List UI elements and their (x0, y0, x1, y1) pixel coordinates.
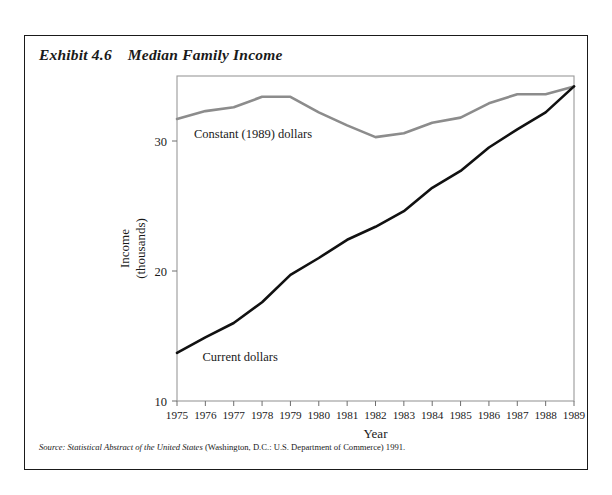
x-tick-label: 1977 (223, 409, 246, 421)
x-tick-label: 1983 (393, 409, 416, 421)
y-tick-label: 20 (155, 265, 168, 279)
series-line (177, 86, 574, 353)
x-tick-label: 1978 (251, 409, 274, 421)
chart-figure: 1020301975197619771978197919801981198219… (25, 36, 589, 471)
x-tick-label: 1988 (534, 409, 557, 421)
exhibit-container: Exhibit 4.6Median Family Income 10203019… (24, 35, 588, 470)
source-publisher: (Washington, D.C.: U.S. Department of Co… (205, 442, 405, 452)
x-tick-label: 1975 (166, 409, 189, 421)
x-tick-label: 1980 (308, 409, 331, 421)
x-tick-label: 1985 (449, 409, 472, 421)
scan-artifact (250, 4, 450, 14)
x-axis-title: Year (364, 426, 389, 441)
source-label: Source: (39, 442, 65, 452)
series-annotation: Current dollars (203, 350, 278, 364)
y-tick-label: 10 (155, 395, 168, 409)
y-axis-title: Income (117, 229, 132, 268)
y-tick-label: 30 (155, 135, 168, 149)
line-chart: 1020301975197619771978197919801981198219… (25, 36, 589, 471)
x-tick-label: 1986 (478, 409, 501, 421)
y-axis-title: (thousands) (133, 218, 148, 279)
series-annotation: Constant (1989) dollars (194, 127, 312, 141)
source-work-title: Statistical Abstract of the United State… (68, 442, 203, 452)
x-tick-label: 1987 (506, 409, 529, 421)
x-tick-label: 1981 (336, 409, 358, 421)
source-note: Source: Statistical Abstract of the Unit… (39, 442, 405, 452)
x-tick-label: 1976 (194, 409, 217, 421)
x-tick-label: 1989 (563, 409, 586, 421)
x-tick-label: 1979 (279, 409, 302, 421)
x-tick-label: 1984 (421, 409, 444, 421)
x-tick-label: 1982 (364, 409, 386, 421)
